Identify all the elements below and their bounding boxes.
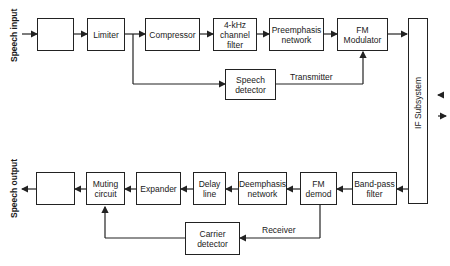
carrier-detector-box: Carrier detector xyxy=(185,222,240,255)
carrier-detector-label: Carrier detector xyxy=(186,229,239,249)
fm-demod-label: FM demod xyxy=(301,179,336,199)
muting-circuit-label: Muting circuit xyxy=(87,179,124,199)
tx-amplifier-box xyxy=(37,18,74,51)
limiter-label: Limiter xyxy=(93,30,119,40)
delay-line-box: Delay line xyxy=(193,172,226,205)
expander-box: Expander xyxy=(136,172,181,205)
muting-circuit-box: Muting circuit xyxy=(86,172,125,205)
expander-label: Expander xyxy=(140,184,176,194)
fm-modulator-box: FM Modulator xyxy=(337,18,388,51)
delay-line-label: Delay line xyxy=(194,179,225,199)
bandpass-filter-box: Band-pass filter xyxy=(352,172,397,205)
fm-demod-box: FM demod xyxy=(300,172,337,205)
preemphasis-box: Preemphasis network xyxy=(269,18,324,51)
speech-input-label: Speech input xyxy=(9,9,19,62)
if-subsystem-label: IF Subsystem xyxy=(413,65,423,141)
speech-detector-box: Speech detector xyxy=(225,69,276,100)
bandpass-filter-label: Band-pass filter xyxy=(353,179,396,199)
preemphasis-label: Preemphasis network xyxy=(270,25,323,45)
speech-detector-label: Speech detector xyxy=(226,75,275,95)
channel-filter-label: 4-kHz channel filter xyxy=(214,20,256,50)
compressor-box: Compressor xyxy=(145,18,200,51)
receiver-label: Receiver xyxy=(262,225,296,235)
compressor-label: Compressor xyxy=(149,30,195,40)
limiter-box: Limiter xyxy=(87,18,125,51)
transmitter-label: Transmitter xyxy=(290,72,333,82)
channel-filter-box: 4-kHz channel filter xyxy=(213,18,257,51)
fm-modulator-label: FM Modulator xyxy=(338,25,387,45)
deemphasis-box: Deemphasis network xyxy=(238,172,287,205)
deemphasis-label: Deemphasis network xyxy=(239,179,286,199)
rx-amplifier-box xyxy=(36,172,75,205)
speech-output-label: Speech output xyxy=(9,159,19,218)
